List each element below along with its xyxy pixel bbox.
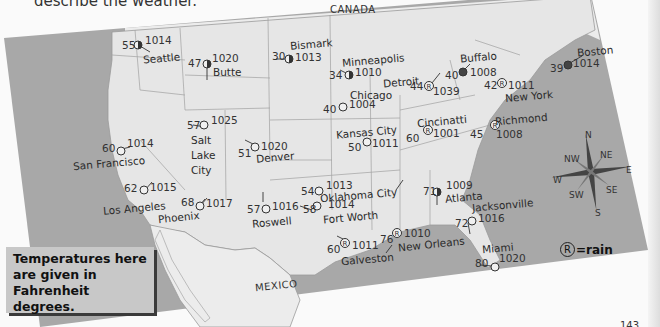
compass-s: S	[595, 208, 601, 218]
rain-symbol-icon: R	[560, 242, 575, 257]
compass-n: N	[585, 130, 592, 140]
compass-nw: NW	[564, 154, 580, 164]
compass-w: W	[553, 175, 562, 185]
legend-rain-text: =rain	[576, 243, 613, 257]
compass-ne: NE	[600, 150, 612, 160]
temperature-note: Temperatures here are given in Fahrenhei…	[13, 251, 147, 315]
page-number: 143	[620, 320, 639, 327]
temperature-note-box: Temperatures here are given in Fahrenhei…	[6, 247, 154, 313]
page-binding-edge	[648, 0, 660, 327]
compass-sw: SW	[569, 190, 584, 200]
compass-se: SE	[606, 185, 617, 195]
map-legend: R =rain	[560, 242, 613, 257]
weather-map: CANADA MEXICO R	[0, 0, 660, 327]
compass-e: E	[626, 165, 632, 175]
